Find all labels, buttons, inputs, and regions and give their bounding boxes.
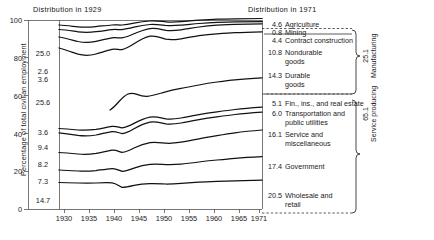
group-name-service-producing: Service producing <box>370 86 377 142</box>
y-tick-60: 60 <box>0 92 22 101</box>
legend-label-service: Service and <box>285 130 323 139</box>
legend-label-durable: Durable <box>285 71 310 80</box>
value-1929-transportation: 9.4 <box>30 143 56 152</box>
curve-finance-top <box>110 78 262 110</box>
legend-value-nondurable: 10.8 <box>265 49 282 58</box>
legend-label-transportation-line2: public utilities <box>285 119 345 128</box>
legend-item-construction: 4.4 Contract construction <box>265 37 353 46</box>
legend-value-government: 17.4 <box>265 163 282 172</box>
value-1929-service: 8.2 <box>30 160 56 169</box>
y-tick-0: 0 <box>0 205 22 214</box>
legend-value-finance: 5.1 <box>265 100 282 109</box>
value-1929-wholesale: 14.7 <box>30 196 56 205</box>
y-tick-20: 20 <box>0 167 22 176</box>
legend-label-service-line2: miscellaneous <box>285 140 331 149</box>
legend-item-transportation: 6.0 Transportation and public utilities <box>265 110 345 127</box>
legend-item-nondurable: 10.8 Nondurable goods <box>265 49 322 66</box>
legend-item-wholesale: 20.5 Wholesale and retail <box>265 192 333 209</box>
legend-value-durable: 14.3 <box>265 72 282 81</box>
y-tick-80: 80 <box>0 54 22 63</box>
curve-service-top <box>59 112 262 136</box>
legend-value-transportation: 6.0 <box>265 110 282 119</box>
value-1929-agriculture: 25.0 <box>30 49 56 58</box>
legend-label-construction: Contract construction <box>285 36 353 45</box>
curve-durable-top <box>59 32 262 56</box>
group-value-service-producing: 65.1 <box>362 86 370 142</box>
legend-label-wholesale-line2: retail <box>285 201 333 210</box>
curve-government-top <box>59 130 262 154</box>
group-value-manufacturing: 25.1 <box>362 34 370 78</box>
legend-value-wholesale: 20.5 <box>265 192 282 201</box>
legend-label-government: Government <box>285 162 325 171</box>
group-name-manufacturing: Manufacturing <box>370 34 377 78</box>
legend-label-nondurable: Nondurable <box>285 48 322 57</box>
y-tick-40: 40 <box>0 130 22 139</box>
bracket-manufacturing <box>352 30 360 94</box>
legend-label-durable-line2: goods <box>285 81 310 90</box>
legend-label-wholesale: Wholesale and <box>285 191 333 200</box>
legend-item-government: 17.4 Government <box>265 163 325 172</box>
group-label-manufacturing: 25.1 Manufacturing <box>362 34 378 78</box>
value-1929-construction: 3.6 <box>30 75 56 84</box>
legend-item-service: 16.1 Service and miscellaneous <box>265 131 331 148</box>
group-label-service-producing: 65.1 Service producing <box>362 86 378 142</box>
curve-wholesale-top <box>59 157 262 172</box>
chart-figure: Distribution in 1929 Distribution in 197… <box>0 0 434 240</box>
legend-label-transportation: Transportation and <box>285 109 345 118</box>
legend-item-finance: 5.1 Fin., ins., and real estate <box>265 100 364 109</box>
legend-value-construction: 4.4 <box>265 37 282 46</box>
legend-value-service: 16.1 <box>265 131 282 140</box>
value-1929-government: 7.3 <box>30 177 56 186</box>
legend-label-finance: Fin., ins., and real estate <box>285 99 364 108</box>
legend-label-nondurable-line2: goods <box>285 58 322 67</box>
curve-wholesale-bottom <box>59 180 262 187</box>
y-tick-100: 100 <box>0 16 22 25</box>
legend-item-durable: 14.3 Durable goods <box>265 72 310 89</box>
curve-transportation-top <box>59 107 262 130</box>
value-1929-manufacturing: 25.6 <box>30 98 56 107</box>
value-1929-finance: 3.6 <box>30 128 56 137</box>
bracket-service-producing <box>352 100 360 213</box>
x-tick-1971: 1971 <box>244 214 274 223</box>
